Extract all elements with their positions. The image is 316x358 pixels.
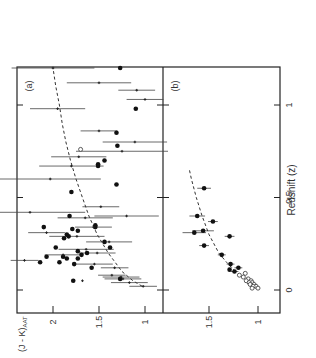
data-point-filled: [202, 243, 207, 248]
data-point-cross: [23, 259, 26, 262]
data-point-cross: [100, 205, 103, 208]
data-point-cross: [45, 231, 48, 234]
svg-text:(J - K)AAT: (J - K)AAT: [17, 316, 28, 352]
data-point-filled: [69, 190, 74, 195]
y-axis-label-sub: AAT: [22, 316, 28, 328]
data-point-filled: [102, 240, 107, 245]
data-point-filled: [227, 267, 232, 272]
data-point-filled: [72, 262, 77, 267]
data-point-cross: [125, 215, 128, 218]
data-point-cross: [81, 279, 84, 282]
data-point-cross: [77, 156, 80, 159]
data-point-filled: [108, 245, 113, 250]
data-point-filled: [118, 66, 123, 71]
data-point-cross: [84, 217, 87, 220]
data-point-cross: [142, 285, 145, 288]
data-point-cross: [98, 130, 101, 133]
color-tick-label: 1.5: [94, 316, 104, 329]
data-point-filled: [227, 234, 232, 239]
error-bars: [0, 68, 242, 286]
data-point-filled: [236, 266, 241, 271]
redshift-tick-label: 1: [284, 102, 294, 107]
data-point-cross: [128, 281, 131, 284]
color-tick-label: 1: [253, 319, 263, 324]
data-point-filled: [76, 229, 81, 234]
data-point-filled: [96, 164, 101, 169]
data-point-cross: [121, 150, 124, 153]
y-axis-label-main: (J - K): [17, 328, 27, 353]
data-point-open: [237, 273, 241, 277]
panel-a-label: (a): [24, 80, 34, 91]
data-point-open: [250, 286, 254, 290]
x-axis-label: Redshift (z): [286, 164, 297, 215]
data-point-open: [241, 275, 245, 279]
data-point-cross: [56, 107, 59, 110]
data-point-filled: [44, 254, 49, 259]
data-point-cross: [134, 141, 137, 144]
data-point-filled: [102, 158, 107, 163]
data-point-cross: [144, 98, 147, 101]
data-point-filled: [219, 253, 224, 258]
color-ticks: [53, 306, 258, 313]
data-point-cross: [49, 178, 52, 181]
data-point-cross: [108, 241, 111, 244]
data-point-filled: [195, 214, 200, 219]
data-point-filled: [114, 182, 119, 187]
data-point-cross: [93, 263, 96, 266]
data-point-filled: [71, 278, 76, 283]
data-point-cross: [111, 274, 114, 277]
data-point-open: [79, 147, 83, 151]
redshift-ticks: [17, 105, 280, 290]
data-point-filled: [65, 256, 70, 261]
data-point-cross: [29, 211, 32, 214]
data-point-filled: [42, 225, 47, 230]
y-axis-label: (J - K)AAT: [17, 316, 28, 352]
data-point-filled: [38, 260, 43, 265]
data-point-open: [256, 286, 260, 290]
data-point-filled: [232, 269, 237, 274]
data-point-filled: [66, 234, 71, 239]
data-point-filled: [114, 130, 119, 135]
data-point-filled: [85, 251, 90, 256]
data-point-filled: [79, 253, 84, 258]
redshift-tick-label: 0: [284, 287, 294, 292]
data-point-filled: [57, 260, 62, 265]
color-tick-label: 1: [140, 319, 150, 324]
data-point-cross: [98, 82, 101, 85]
data-point-filled: [134, 106, 139, 111]
color-tick-label: 2: [48, 319, 58, 324]
color-tick-labels: 21.511.51: [48, 316, 263, 329]
data-point-filled: [192, 230, 197, 235]
data-point-filled: [76, 249, 81, 254]
figure: (a) (b) 00.51 21.511.51 Redshift (z) (J …: [0, 0, 316, 358]
data-point-filled: [115, 143, 120, 148]
data-point-cross: [85, 248, 88, 251]
data-point-filled: [201, 229, 206, 234]
data-point-cross: [96, 252, 99, 255]
data-point-filled: [228, 262, 233, 267]
data-point-filled: [211, 219, 216, 224]
color-tick-label: 1.5: [204, 316, 214, 329]
data-point-cross: [76, 235, 79, 238]
data-point-filled: [62, 236, 67, 241]
data-point-filled: [202, 186, 207, 191]
data-point-filled: [67, 214, 72, 219]
data-point-cross: [113, 267, 116, 270]
data-point-filled: [53, 245, 58, 250]
panel-b-label: (b): [170, 80, 180, 91]
data-point-filled: [70, 227, 75, 232]
data-point-filled: [76, 256, 81, 261]
data-point-filled: [89, 266, 94, 271]
data-point-cross: [135, 89, 138, 92]
